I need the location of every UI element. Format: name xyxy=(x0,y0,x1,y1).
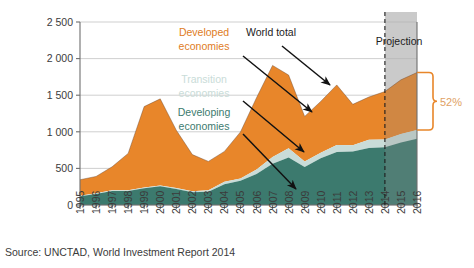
x-tick-label: 2000 xyxy=(154,190,166,214)
x-tick-label: 1999 xyxy=(138,190,150,214)
x-tick-label: 1996 xyxy=(90,190,102,214)
x-tick-label: 2001 xyxy=(170,190,182,214)
label-projection: Projection xyxy=(376,35,423,47)
y-tick-label: 1 500 xyxy=(47,89,73,101)
x-tick-label: 2016 xyxy=(411,190,423,214)
x-tick-label: 1998 xyxy=(122,190,134,214)
x-tick-label: 2015 xyxy=(395,190,407,214)
y-tick-label: 500 xyxy=(55,162,73,174)
x-tick-label: 2013 xyxy=(363,190,375,214)
source-note: Source: UNCTAD, World Investment Report … xyxy=(5,246,235,258)
x-tick-label: 2003 xyxy=(202,190,214,214)
label-transition-line1: Transition xyxy=(181,73,227,85)
x-tick-label: 1997 xyxy=(106,190,118,214)
label-developing-line2: economies xyxy=(179,120,230,132)
x-tick-label: 2008 xyxy=(283,190,295,214)
label-developed-line1: Developed xyxy=(179,26,229,38)
x-tick-label: 2006 xyxy=(251,190,263,214)
label-developing-line1: Developing xyxy=(178,106,231,118)
share-bracket xyxy=(417,73,437,130)
y-tick-label: 0 xyxy=(67,199,73,211)
fdi-inflows-chart: 05001 0001 5002 0002 5001995199619971998… xyxy=(0,0,474,268)
label-world-total: World total xyxy=(246,26,296,38)
x-tick-label: 2009 xyxy=(299,190,311,214)
y-tick-label: 1 000 xyxy=(47,126,73,138)
chart-canvas: 05001 0001 5002 0002 5001995199619971998… xyxy=(0,0,474,268)
x-tick-label: 2007 xyxy=(267,190,279,214)
x-tick-label: 2010 xyxy=(315,190,327,214)
label-developed-line2: economies xyxy=(179,40,230,52)
y-tick-label: 2 000 xyxy=(47,52,73,64)
x-tick-label: 1995 xyxy=(74,190,86,214)
label-share-percent: 52% xyxy=(440,96,462,108)
x-tick-label: 2012 xyxy=(347,190,359,214)
x-tick-label: 2011 xyxy=(331,191,343,214)
y-tick-label: 2 500 xyxy=(47,16,73,28)
x-tick-label: 2004 xyxy=(218,190,230,214)
x-tick-label: 2002 xyxy=(186,190,198,214)
label-transition-line2: economies xyxy=(179,87,230,99)
x-tick-label: 2005 xyxy=(234,190,246,214)
